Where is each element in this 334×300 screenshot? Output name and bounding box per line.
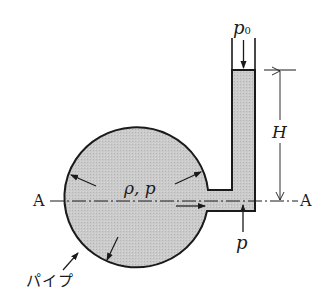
p-label: p — [236, 234, 248, 252]
pipe-label: パイプ — [26, 274, 74, 289]
a-left-label: A — [33, 193, 45, 209]
a-right-label: A — [300, 193, 312, 209]
rho-p-label: ρ, p — [124, 180, 156, 197]
h-label: H — [272, 124, 287, 141]
p0-label: p0 — [233, 19, 251, 37]
manometer-diagram: p0 H ρ, p p A A パイプ — [0, 0, 334, 300]
diagram-graphics — [0, 0, 334, 300]
pipe-leader-arrow-icon — [63, 253, 78, 270]
pipe-and-manometer-fluid — [64, 70, 255, 267]
